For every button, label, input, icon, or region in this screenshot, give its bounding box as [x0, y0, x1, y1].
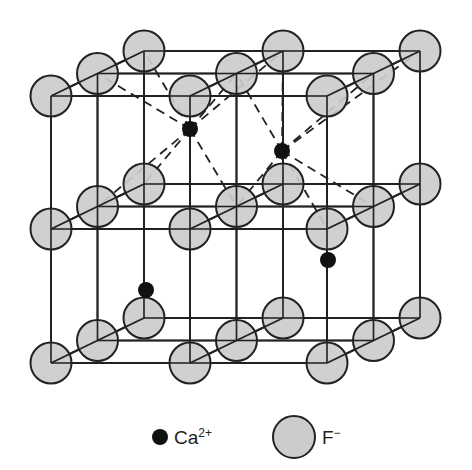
legend-anion-label: F−: [322, 426, 341, 449]
fluorite-lattice-diagram: [0, 0, 472, 470]
legend-cation-label: Ca2+: [174, 426, 212, 449]
legend-anion-icon: [273, 416, 315, 458]
calcium-cation: [138, 282, 154, 298]
legend-cation-icon: [152, 429, 168, 445]
calcium-cation: [320, 252, 336, 268]
calcium-cation: [182, 121, 198, 137]
calcium-cation: [274, 143, 290, 159]
